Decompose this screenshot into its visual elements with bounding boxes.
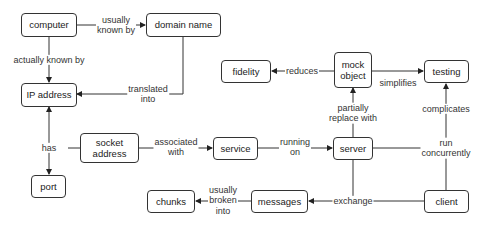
node-service[interactable]: service [213, 137, 258, 160]
node-label: port [40, 181, 56, 192]
node-label: mock object [340, 59, 365, 82]
node-messages[interactable]: messages [251, 190, 308, 213]
edge-label-associated-with: associated with [153, 137, 198, 158]
node-testing[interactable]: testing [424, 60, 469, 83]
edge-label-translated-into: translated into [127, 84, 169, 105]
edge-label-partially-replace-with: partially replace with [328, 103, 378, 124]
node-label: client [435, 196, 457, 207]
node-server[interactable]: server [333, 137, 373, 160]
edge-label-complicates: complicates [421, 104, 471, 114]
node-label: IP address [26, 89, 71, 100]
node-port[interactable]: port [31, 175, 66, 198]
node-label: service [220, 143, 250, 154]
node-domain-name[interactable]: domain name [146, 13, 221, 37]
node-client[interactable]: client [424, 190, 469, 213]
edge-label-exchange: exchange [332, 196, 373, 206]
node-fidelity[interactable]: fidelity [221, 60, 271, 83]
node-label: testing [433, 66, 461, 77]
node-socket-address[interactable]: socket address [80, 133, 139, 163]
edge-label-reduces: reduces [285, 66, 319, 76]
edge-label-has: has [41, 143, 58, 153]
node-label: server [340, 143, 366, 154]
edge-label-usually-broken-into: usually broken into [208, 185, 238, 216]
node-label: chunks [156, 196, 186, 207]
node-label: computer [29, 19, 69, 30]
node-label: domain name [155, 19, 213, 30]
edge-label-actually-known-by: actually known by [12, 55, 85, 65]
node-mock-object[interactable]: mock object [334, 52, 372, 88]
node-chunks[interactable]: chunks [147, 190, 195, 213]
node-label: fidelity [233, 66, 260, 77]
edge-label-run-concurrently: run concurrently [420, 138, 471, 159]
node-label: socket address [93, 137, 127, 160]
node-ip-address[interactable]: IP address [21, 83, 77, 107]
edge-label-usually-known-by: usually known by [96, 15, 136, 36]
node-label: messages [258, 196, 301, 207]
edge-label-simplifies: simplifies [378, 78, 417, 88]
node-computer[interactable]: computer [21, 13, 77, 37]
edge-label-running-on: running on [279, 137, 311, 158]
